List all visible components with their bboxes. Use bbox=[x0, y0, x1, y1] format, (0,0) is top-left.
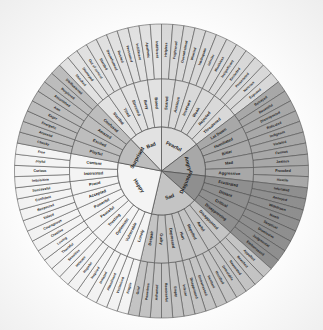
secondary-label-guilty: Guilty bbox=[159, 233, 164, 245]
secondary-label-aggressive: Aggressive bbox=[219, 170, 242, 176]
tertiary-label-curious: Curious bbox=[34, 169, 47, 173]
tertiary-label-ashamed: Ashamed bbox=[154, 285, 159, 301]
tertiary-label-provoked: Provoked bbox=[275, 169, 291, 173]
secondary-label-bored: Bored bbox=[154, 97, 160, 109]
core-emotions-ring[interactable] bbox=[118, 127, 206, 215]
secondary-label-interested: Interested bbox=[84, 170, 104, 176]
feelings-wheel-container: HelplessFrightenedOverwhelmedWorriedInad… bbox=[0, 0, 323, 330]
feelings-wheel-chart[interactable]: HelplessFrightenedOverwhelmedWorriedInad… bbox=[0, 0, 323, 330]
tertiary-label-joyful: Joyful bbox=[35, 159, 45, 164]
secondary-label-scared: Scared bbox=[163, 96, 169, 110]
secondary-label-mad: Mad bbox=[225, 160, 234, 166]
tertiary-label-indifferent: Indifferent bbox=[155, 41, 160, 59]
tertiary-label-remorseful: Remorseful bbox=[164, 283, 169, 302]
tertiary-label-helpless: Helpless bbox=[164, 42, 169, 56]
